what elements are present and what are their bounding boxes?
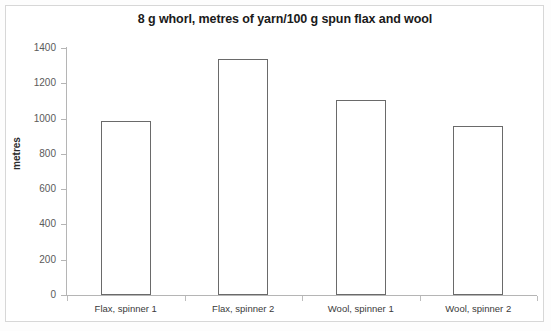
- x-tick-mark: [420, 296, 421, 301]
- x-tick-label: Wool, spinner 1: [302, 303, 420, 314]
- y-tick-label: 400: [16, 218, 56, 229]
- x-tick-mark: [67, 296, 68, 301]
- y-tick-label: 800: [16, 148, 56, 159]
- y-tick-mark: [61, 189, 66, 190]
- chart-figure: 8 g whorl, metres of yarn/100 g spun fla…: [0, 0, 551, 331]
- y-tick-mark: [61, 260, 66, 261]
- x-tick-label: Wool, spinner 2: [420, 303, 538, 314]
- y-tick-label: 200: [16, 254, 56, 265]
- chart-title: 8 g whorl, metres of yarn/100 g spun fla…: [40, 12, 530, 26]
- x-tick-mark: [185, 296, 186, 301]
- y-axis-line: [66, 47, 67, 296]
- y-tick-mark: [61, 119, 66, 120]
- y-tick-mark: [61, 154, 66, 155]
- bar: [218, 59, 268, 295]
- x-tick-mark: [537, 296, 538, 301]
- y-tick-mark: [61, 224, 66, 225]
- x-tick-label: Flax, spinner 1: [67, 303, 185, 314]
- y-tick-label: 1400: [16, 42, 56, 53]
- bar: [336, 100, 386, 295]
- y-tick-label: 0: [16, 289, 56, 300]
- y-tick-mark: [61, 295, 66, 296]
- bar: [453, 126, 503, 295]
- y-tick-label: 600: [16, 183, 56, 194]
- x-tick-mark: [302, 296, 303, 301]
- bar: [101, 121, 151, 295]
- x-tick-label: Flax, spinner 2: [185, 303, 303, 314]
- y-tick-label: 1200: [16, 77, 56, 88]
- y-tick-label: 1000: [16, 113, 56, 124]
- y-tick-mark: [61, 83, 66, 84]
- y-tick-mark: [61, 48, 66, 49]
